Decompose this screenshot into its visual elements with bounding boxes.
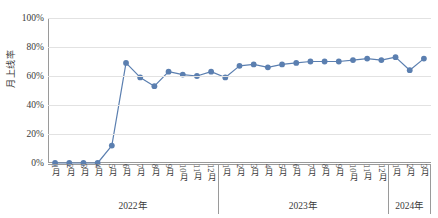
x-axis-year-labels: 2022年2023年2024年	[48, 196, 431, 216]
gridline-60%	[48, 76, 431, 77]
x-tick-label: 12月	[374, 164, 388, 196]
x-tick-label: 10月	[346, 164, 360, 196]
x-tick-label: 1月	[218, 164, 232, 196]
x-tick-label: 9月	[332, 164, 346, 196]
x-tick-label: 2月	[403, 164, 417, 196]
x-axis-band: 1月2月3月4月5月6月7月8月9月10月11月12月1月2月3月4月5月6月7…	[48, 164, 431, 218]
y-tick-label: 20%	[2, 129, 44, 139]
x-tick-label: 1月	[48, 164, 62, 196]
x-axis-end-separator	[430, 164, 431, 196]
x-tick-label: 11月	[360, 164, 374, 196]
y-tick-label: 0%	[2, 158, 44, 168]
x-tick-label: 12月	[204, 164, 218, 196]
data-point[interactable]: 10月: 71%	[350, 57, 356, 63]
x-tick-label: 2月	[232, 164, 246, 196]
data-point[interactable]: 5月: 68%	[279, 62, 285, 68]
data-point[interactable]: 5月: 12%	[109, 143, 115, 149]
x-tick-label: 11月	[190, 164, 204, 196]
x-tick-label: 10月	[176, 164, 190, 196]
year-group-label: 2023年	[218, 196, 388, 214]
x-tick-label: 6月	[289, 164, 303, 196]
year-group-separator	[218, 196, 219, 214]
year-group-separator	[218, 164, 219, 196]
x-tick-label: 4月	[91, 164, 105, 196]
x-tick-label: 3月	[417, 164, 431, 196]
data-point[interactable]: 6月: 69%	[293, 60, 299, 66]
x-tick-label: 9月	[161, 164, 175, 196]
x-tick-label: 8月	[147, 164, 161, 196]
y-tick-label: 100%	[2, 13, 44, 23]
x-tick-label: 7月	[303, 164, 317, 196]
data-point[interactable]: 11月: 72%	[364, 56, 370, 62]
x-tick-label: 8月	[318, 164, 332, 196]
gridline-40%	[48, 105, 431, 106]
year-group-label: 2024年	[388, 196, 431, 214]
data-point[interactable]: 9月: 63%	[166, 69, 172, 75]
x-tick-label: 1月	[388, 164, 402, 196]
gridline-20%	[48, 134, 431, 135]
data-point[interactable]: 2月: 67%	[237, 63, 243, 69]
data-point[interactable]: 8月: 70%	[322, 59, 328, 65]
x-axis-month-labels: 1月2月3月4月5月6月7月8月9月10月11月12月1月2月3月4月5月6月7…	[48, 164, 431, 196]
data-point[interactable]: 1月: 73%	[393, 54, 399, 60]
y-tick-label: 60%	[2, 71, 44, 81]
year-group-separator	[388, 196, 389, 214]
x-tick-label: 5月	[105, 164, 119, 196]
data-point[interactable]: 8月: 53%	[151, 83, 157, 89]
x-axis-end-separator	[430, 196, 431, 214]
data-point[interactable]: 3月: 72%	[421, 56, 427, 62]
data-point[interactable]: 12月: 63%	[208, 69, 214, 75]
data-point[interactable]: 6月: 69%	[123, 60, 129, 66]
x-tick-label: 4月	[261, 164, 275, 196]
series-line-月上线率: 1月: 0%2月: 0%3月: 0%4月: 0%5月: 12%6月: 69%7月…	[48, 18, 431, 163]
data-point[interactable]: 4月: 66%	[265, 64, 271, 70]
x-tick-label: 2月	[62, 164, 76, 196]
y-tick-label: 40%	[2, 100, 44, 110]
y-tick-label: 80%	[2, 42, 44, 52]
x-tick-label: 5月	[275, 164, 289, 196]
data-point[interactable]: 2月: 64%	[407, 67, 413, 73]
data-point[interactable]: 7月: 70%	[308, 59, 314, 65]
data-point[interactable]: 3月: 68%	[251, 62, 257, 68]
x-tick-label: 3月	[247, 164, 261, 196]
plot-area: 1月: 0%2月: 0%3月: 0%4月: 0%5月: 12%6月: 69%7月…	[48, 18, 431, 163]
data-point[interactable]: 12月: 71%	[378, 57, 384, 63]
year-group-separator	[388, 164, 389, 196]
year-group-label: 2022年	[48, 196, 218, 214]
data-point[interactable]: 9月: 70%	[336, 59, 342, 65]
gridline-100%	[48, 18, 431, 19]
y-axis-tick-labels: 0%20%40%60%80%100%	[0, 18, 44, 163]
gridline-80%	[48, 47, 431, 48]
line-chart: 月上线率 0%20%40%60%80%100% 1月: 0%2月: 0%3月: …	[0, 0, 438, 218]
x-tick-label: 7月	[133, 164, 147, 196]
x-tick-label: 3月	[76, 164, 90, 196]
x-tick-label: 6月	[119, 164, 133, 196]
